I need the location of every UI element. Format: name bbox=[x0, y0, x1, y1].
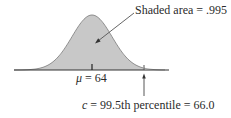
c-arrowhead-icon bbox=[142, 74, 146, 79]
mean-value: = 64 bbox=[82, 71, 107, 85]
percentile-label: c = 99.5th percentile = 66.0 bbox=[82, 98, 215, 112]
normal-curve-figure: Shaded area = .995 μ = 64 c = 99.5th per… bbox=[0, 0, 231, 118]
mean-label: μ = 64 bbox=[76, 71, 107, 85]
percentile-value: = 99.5th percentile = 66.0 bbox=[87, 98, 214, 112]
shaded-area-label: Shaded area = .995 bbox=[135, 3, 227, 17]
shaded-area-region bbox=[14, 15, 144, 70]
